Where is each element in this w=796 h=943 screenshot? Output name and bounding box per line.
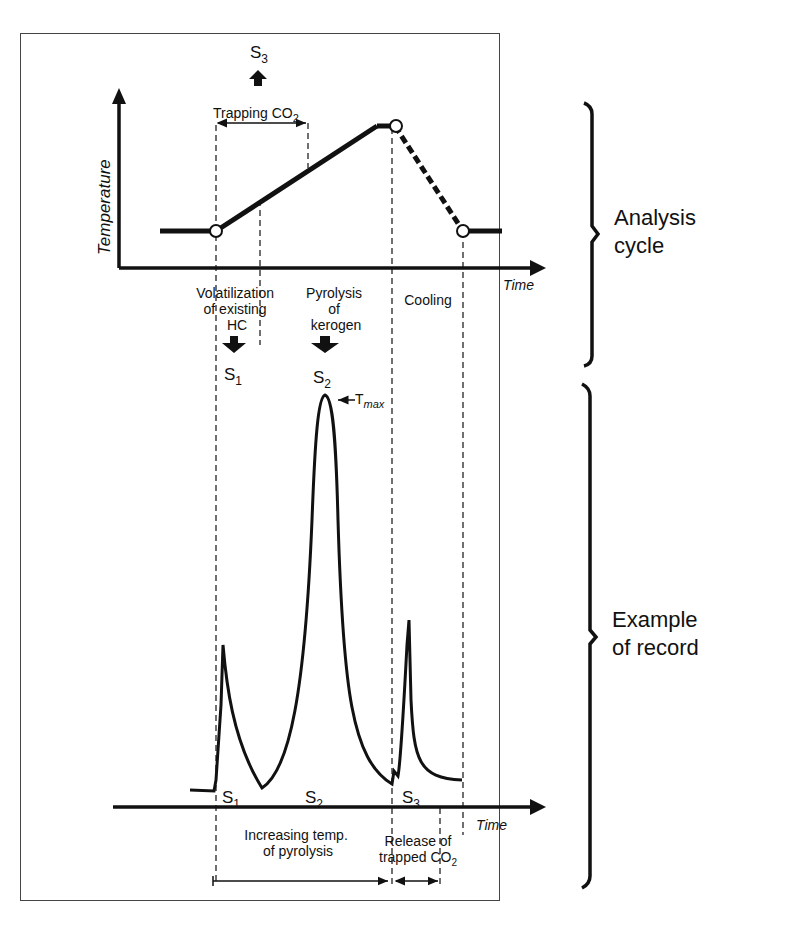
start-ramp-marker-icon	[210, 225, 222, 237]
analysis-cycle-bracket-icon	[584, 103, 598, 366]
record-signal-trace	[190, 395, 462, 791]
phase-volatilization-label: Volatilization of existing HC	[196, 285, 278, 333]
x-axis-arrow-icon	[530, 260, 546, 276]
bottom-span-arrows	[213, 876, 438, 886]
example-record-bracket-icon	[582, 384, 596, 888]
y-axis-label-temperature: Temperature	[95, 159, 114, 255]
record-axis	[113, 799, 546, 815]
s1-top-label: S1	[224, 365, 242, 388]
tmax-label: Tmax	[355, 391, 385, 410]
y-axis-arrow-icon	[112, 88, 126, 104]
diagram-canvas: Temperature Time Trapping CO2 S3 Volatil…	[0, 0, 796, 943]
end-cooling-marker-icon	[457, 225, 469, 237]
max-temp-marker-icon	[390, 120, 402, 132]
trapping-co2-label: Trapping CO2	[213, 105, 299, 124]
s3-up-arrow-icon	[249, 70, 267, 86]
phase-cooling-label: Cooling	[404, 292, 451, 308]
x-axis-label-time-top: Time	[503, 277, 534, 293]
s3-top-label: S3	[250, 43, 268, 66]
phase-pyrolysis-label: Pyrolysis of kerogen	[306, 285, 366, 333]
analysis-cycle-label: Analysis cycle	[614, 205, 702, 258]
s2-top-label: S2	[313, 368, 331, 391]
s2-down-arrow-icon	[311, 336, 339, 353]
temperature-axes	[112, 88, 546, 276]
s1-down-arrow-icon	[222, 336, 246, 353]
x-axis-label-time-bottom: Time	[476, 817, 507, 833]
example-record-label: Example of record	[612, 607, 704, 660]
record-axis-arrow-icon	[530, 799, 546, 815]
release-co2-label: Release of trapped CO2	[379, 833, 457, 868]
temperature-program-line	[160, 120, 502, 237]
increasing-temp-label: Increasing temp. of pyrolysis	[244, 827, 351, 859]
